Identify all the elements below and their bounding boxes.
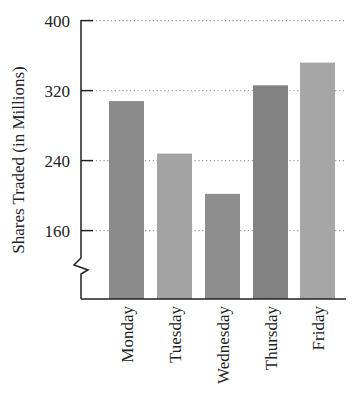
y-tick-label: 240 (45, 152, 71, 171)
y-tick-label: 160 (45, 222, 71, 241)
x-category-labels: MondayTuesdayWednesdayThursdayFriday (118, 306, 328, 384)
bar-thursday (253, 85, 288, 299)
y-axis-title: Shares Traded (in Millions) (9, 66, 28, 253)
bar-wednesday (205, 194, 240, 299)
x-category-label: Monday (118, 306, 137, 363)
y-tick-label: 400 (45, 12, 71, 31)
x-category-label: Thursday (262, 306, 281, 371)
x-category-label: Wednesday (214, 306, 233, 384)
bar-monday (109, 101, 144, 299)
bar-chart: 160240320400 MondayTuesdayWednesdayThurs… (0, 0, 352, 404)
y-ticks: 160240320400 (45, 12, 94, 241)
bar-tuesday (157, 154, 192, 299)
y-tick-label: 320 (45, 82, 71, 101)
bars (109, 63, 335, 299)
x-category-label: Friday (309, 306, 328, 351)
x-category-label: Tuesday (166, 306, 185, 363)
y-axis-line (74, 20, 88, 299)
bar-friday (300, 63, 335, 299)
